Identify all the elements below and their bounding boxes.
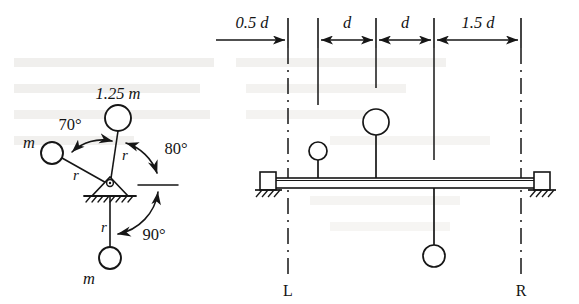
label-angle-90: 90° — [142, 225, 165, 244]
mass-circle-left — [41, 142, 63, 164]
right-bearing-hatching — [530, 190, 554, 197]
angle-arc-80 — [126, 143, 157, 173]
pivot-center-inner — [109, 182, 111, 184]
plane-label-R: R — [516, 282, 527, 299]
arm-to-left-mass — [62, 158, 110, 185]
label-radius-top: r — [122, 147, 128, 163]
label-radius-left: r — [73, 167, 79, 183]
mass-circle-top — [105, 105, 131, 131]
engineering-diagram: 1.25 m m m r r r 70° 80° 90° — [0, 0, 579, 304]
plane-center-lines — [288, 48, 521, 276]
label-radius-bottom: r — [101, 219, 107, 235]
label-mass-bottom: m — [83, 269, 95, 288]
dimension-labels: 0.5 d d d 1.5 d — [236, 13, 496, 32]
label-angle-70: 70° — [58, 115, 81, 134]
mass-circle-down — [423, 245, 445, 267]
shaft-body — [270, 178, 540, 188]
mass-circle-up-large — [363, 109, 389, 135]
shaft-assembly — [270, 178, 540, 188]
plane-labels: L R — [283, 282, 527, 299]
dim-label-3: 1.5 d — [462, 13, 496, 32]
mass-circle-up-small — [309, 142, 327, 160]
background-bleed-text — [14, 58, 490, 231]
left-bearing-hatching — [256, 190, 280, 197]
dim-label-0: 0.5 d — [236, 13, 270, 32]
plane-label-L: L — [283, 282, 293, 299]
label-angle-80: 80° — [164, 139, 187, 158]
label-mass-left: m — [23, 133, 35, 152]
left-bearing-block — [260, 172, 276, 190]
figure-canvas: 1.25 m m m r r r 70° 80° 90° — [0, 0, 579, 304]
label-mass-top: 1.25 m — [96, 84, 141, 103]
mass-circle-bottom — [99, 247, 121, 269]
dim-label-2: d — [401, 13, 410, 32]
right-bearing-block — [534, 172, 550, 190]
dim-label-1: d — [343, 13, 352, 32]
